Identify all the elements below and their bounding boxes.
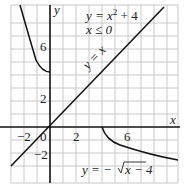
tick-y-2: 2 [40,91,47,106]
parabola-label-line1: y = x2 + 4 [84,7,138,23]
neg-sqrt-label-radicand: x − 4 [124,162,153,177]
graph: y x −2 0 2 6 6 2 −2 y = x2 + 4 x ≤ 0 y =… [0,0,187,192]
y-axis-label: y [52,2,60,17]
neg-sqrt-label-prefix: y = − [80,162,112,177]
parabola-label-line2: x ≤ 0 [85,22,112,37]
tick-x-0: 0 [40,129,47,144]
tick-x-neg2: −2 [17,129,31,144]
tick-y-6: 6 [40,39,47,54]
tick-x-6: 6 [124,129,131,144]
tick-y-neg2: −2 [34,147,48,162]
x-axis-label: x [169,112,176,127]
tick-x-2: 2 [73,129,80,144]
